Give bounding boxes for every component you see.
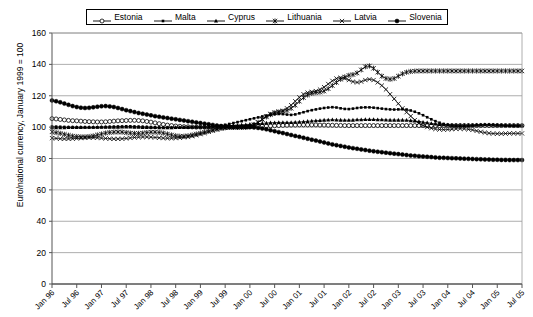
svg-text:Jan 03: Jan 03 — [379, 288, 403, 312]
svg-text:Jul 03: Jul 03 — [406, 288, 428, 310]
svg-text:Jul 01: Jul 01 — [307, 288, 329, 310]
chart-figure: EstoniaMaltaCyprusLithuaniaLatviaSloveni… — [0, 0, 533, 317]
svg-text:Jan 05: Jan 05 — [478, 288, 502, 312]
svg-text:40: 40 — [37, 216, 47, 226]
svg-text:Jan 04: Jan 04 — [429, 288, 453, 312]
data-series — [50, 63, 524, 162]
svg-text:100: 100 — [32, 122, 46, 132]
svg-text:0: 0 — [41, 279, 46, 289]
svg-text:Jul 05: Jul 05 — [505, 288, 527, 310]
svg-text:Jul 04: Jul 04 — [455, 288, 477, 310]
y-axis-title: Euro/national currency, January 1999 = 1… — [15, 9, 25, 241]
svg-text:60: 60 — [37, 185, 47, 195]
y-axis-ticks: 020406080100120140160 — [32, 28, 52, 289]
svg-text:Jan 97: Jan 97 — [83, 288, 107, 312]
svg-text:Jul 00: Jul 00 — [258, 288, 280, 310]
svg-text:80: 80 — [37, 154, 47, 164]
svg-text:Jul 96: Jul 96 — [60, 288, 82, 310]
svg-text:Jul 98: Jul 98 — [159, 288, 181, 310]
x-axis-ticks: Jan 96Jul 96Jan 97Jul 97Jan 98Jul 98Jan … — [33, 284, 527, 311]
svg-text:20: 20 — [37, 248, 47, 258]
svg-text:Jan 96: Jan 96 — [33, 288, 57, 312]
chart-plot-area: 020406080100120140160 Jan 96Jul 96Jan 97… — [0, 0, 533, 317]
svg-text:Jul 02: Jul 02 — [357, 288, 379, 310]
svg-text:160: 160 — [32, 28, 46, 38]
svg-text:Jan 99: Jan 99 — [181, 288, 205, 312]
svg-text:120: 120 — [32, 91, 46, 101]
svg-text:Jul 97: Jul 97 — [109, 288, 131, 310]
svg-text:Jul 99: Jul 99 — [208, 288, 230, 310]
svg-text:Jan 02: Jan 02 — [330, 288, 354, 312]
svg-text:Jan 00: Jan 00 — [231, 288, 255, 312]
svg-text:Jan 01: Jan 01 — [280, 288, 304, 312]
svg-text:Jan 98: Jan 98 — [132, 288, 156, 312]
svg-text:140: 140 — [32, 59, 46, 69]
